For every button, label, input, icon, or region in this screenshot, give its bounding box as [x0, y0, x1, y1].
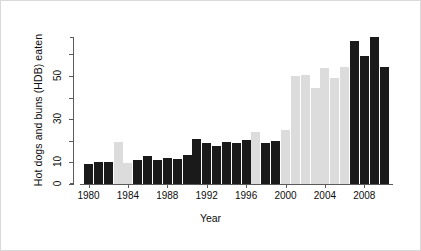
bar: [94, 162, 103, 184]
bar: [261, 143, 270, 184]
bar-series: [0, 0, 421, 184]
bar: [222, 142, 231, 184]
bar: [242, 140, 251, 184]
x-axis-tick: [207, 184, 208, 188]
x-axis-tick: [364, 184, 365, 188]
bar: [84, 164, 93, 184]
x-axis-tick: [89, 184, 90, 188]
bar: [153, 160, 162, 184]
x-axis-title: Year: [0, 212, 421, 224]
x-axis-tick-label: 2008: [344, 190, 384, 201]
x-axis-tick: [167, 184, 168, 188]
x-axis-tick-label: 2000: [266, 190, 306, 201]
x-axis-tick-label: 1980: [69, 190, 109, 201]
bar: [163, 158, 172, 184]
bar: [202, 143, 211, 184]
bar: [183, 155, 192, 184]
bar: [133, 160, 142, 184]
bar: [143, 156, 152, 184]
x-axis-tick-label: 1992: [187, 190, 227, 201]
bar: [320, 68, 329, 184]
bar: [251, 132, 260, 184]
plot-area: Hot dogs and buns (HDB) eaten Year 01030…: [0, 0, 421, 251]
bar: [360, 56, 369, 184]
x-axis-tick: [246, 184, 247, 188]
bar: [232, 143, 241, 184]
x-axis-tick: [325, 184, 326, 188]
x-axis-line: [80, 184, 393, 185]
bar: [173, 159, 182, 184]
bar: [291, 76, 300, 184]
bar: [380, 67, 389, 184]
x-axis-tick-label: 2004: [305, 190, 345, 201]
x-axis-tick-label: 1996: [226, 190, 266, 201]
bar: [350, 41, 359, 184]
bar: [301, 75, 310, 184]
bar: [271, 141, 280, 184]
y-axis-tick: [69, 184, 74, 185]
x-axis-tick: [286, 184, 287, 188]
x-axis-tick-label: 1988: [147, 190, 187, 201]
x-axis-tick: [128, 184, 129, 188]
chart-screenshot: Hot dogs and buns (HDB) eaten Year 01030…: [0, 0, 421, 251]
bar: [104, 162, 113, 184]
bar: [340, 67, 349, 184]
bar: [114, 142, 123, 184]
bar: [281, 130, 290, 184]
bar: [370, 37, 379, 184]
bar: [330, 78, 339, 184]
bar: [192, 139, 201, 184]
bar: [212, 146, 221, 184]
bar: [311, 88, 320, 184]
bar: [123, 163, 132, 184]
x-axis-tick-label: 1984: [108, 190, 148, 201]
